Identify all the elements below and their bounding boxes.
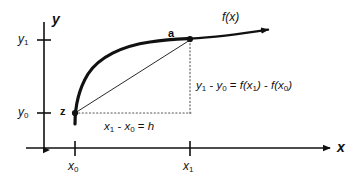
run-x1-main: x — [104, 120, 110, 132]
curve-label-fx: f(x) — [222, 11, 239, 23]
function-secant-diagram: y x y1 y0 x0 x1 z a f(x) x1 - x0 = h y1 … — [0, 0, 359, 183]
rise-fx1-sub: 1 — [253, 84, 257, 93]
x-tick-label-x1: x1 — [183, 160, 193, 172]
y1-sub: 1 — [24, 38, 28, 47]
y0-sub: 0 — [24, 111, 28, 120]
y-tick-label-y1: y1 — [18, 33, 28, 45]
rise-fx1-pre: f(x — [240, 79, 253, 91]
point-marker-a — [187, 36, 193, 42]
point-label-a: a — [168, 28, 174, 39]
secant-line — [75, 40, 190, 113]
rise-minus: - — [206, 79, 216, 91]
rise-minus2: - — [261, 79, 271, 91]
rise-equals: = — [227, 79, 240, 91]
y-tick-label-y0: y0 — [18, 106, 28, 118]
point-label-z: z — [60, 106, 66, 117]
run-equals: = — [135, 120, 148, 132]
run-x0-sub: 0 — [130, 125, 134, 134]
rise-fx0-pre: f(x — [271, 79, 284, 91]
rise-y0-sub: 0 — [222, 84, 226, 93]
run-result: h — [148, 120, 154, 132]
rise-fx0-sub: 0 — [284, 84, 288, 93]
point-marker-z — [72, 110, 78, 116]
run-x1-sub: 1 — [110, 125, 114, 134]
x1-sub: 1 — [189, 165, 193, 174]
diagram-canvas — [0, 0, 359, 183]
function-curve-right-segment — [190, 30, 268, 39]
run-annotation: x1 - x0 = h — [104, 121, 154, 133]
x0-sub: 0 — [74, 165, 78, 174]
run-minus: - — [114, 120, 124, 132]
x-tick-label-x0: x0 — [68, 160, 78, 172]
rise-fx0-post: ) — [288, 79, 292, 91]
rise-y1-sub: 1 — [202, 84, 206, 93]
x-axis-label: x — [337, 140, 345, 154]
rise-y1-main: y — [196, 79, 202, 91]
rise-annotation: y1 - y0 = f(x1) - f(x0) — [196, 80, 292, 92]
y-axis-label: y — [52, 12, 60, 26]
